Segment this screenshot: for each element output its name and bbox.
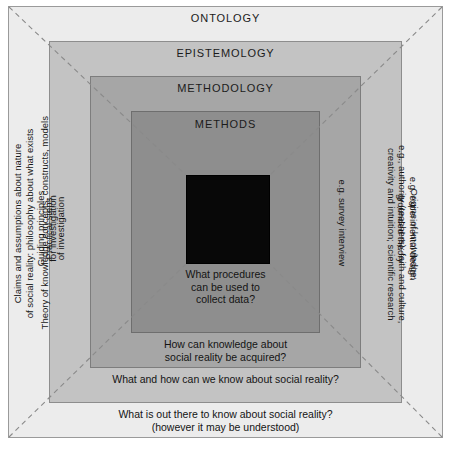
side-label-methodology-right: e.g. experimental design grounded theory (396, 116, 419, 341)
side-label-ontology-left: Claims and assumptions about nature of s… (12, 59, 35, 389)
diagram-canvas: ONTOLOGY EPISTEMOLOGY METHODOLOGY METHOD… (0, 0, 451, 452)
side-label-methods-right: e.g. survey interview (336, 143, 348, 303)
question-epistemology: What and how can we know about social re… (0, 373, 451, 386)
band-title-methodology: METHODOLOGY (0, 82, 451, 94)
question-ontology: What is out there to know about social r… (0, 408, 451, 433)
question-methodology: How can knowledge about social reality b… (0, 338, 451, 363)
side-label-methods-left: Practical steps of investigation (43, 149, 66, 309)
band-title-ontology: ONTOLOGY (0, 12, 451, 24)
band-title-epistemology: EPISTEMOLOGY (0, 47, 451, 59)
band-title-methods: METHODS (0, 118, 451, 130)
question-methods: What procedures can be used to collect d… (0, 268, 451, 306)
layer-core-square (186, 175, 270, 264)
